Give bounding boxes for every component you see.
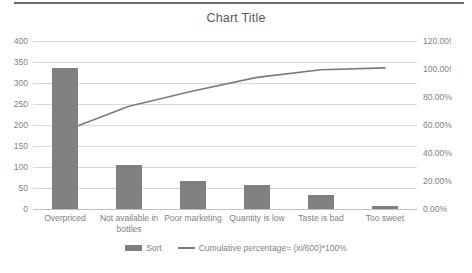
y-axis-left-tick-label: 250	[0, 99, 28, 109]
pareto-chart: Chart Title 050100150200250300350400 0.0…	[0, 0, 472, 273]
y-axis-left-tick-label: 150	[0, 141, 28, 151]
y-axis-right-tick-label: 20.00%	[423, 176, 452, 186]
gridline	[33, 209, 417, 210]
x-axis-tick-label: Not available in bottles	[98, 213, 159, 234]
chart-legend: Sort Cumulative percentage= (xi/600)*100…	[0, 243, 472, 253]
y-axis-right-tick-label: 120.00!	[423, 36, 451, 46]
y-axis-left-tick-label: 0	[0, 204, 28, 214]
x-axis-tick-label: Overpriced	[34, 213, 95, 224]
y-axis-right-tick-label: 40.00%	[423, 148, 452, 158]
plot-area: 050100150200250300350400 0.00%20.00%40.0…	[33, 41, 417, 209]
y-axis-left-tick-label: 50	[0, 183, 28, 193]
x-axis-tick-label: Quantity is low	[226, 213, 287, 224]
legend-label-sort: Sort	[146, 243, 162, 253]
y-axis-left-tick-label: 350	[0, 57, 28, 67]
y-axis-right-tick-label: 60.00%	[423, 120, 452, 130]
chart-title: Chart Title	[0, 11, 472, 25]
legend-item-sort: Sort	[125, 243, 162, 253]
y-axis-left-tick-label: 300	[0, 78, 28, 88]
y-axis-left-tick-label: 400	[0, 36, 28, 46]
legend-bar-swatch-icon	[125, 245, 142, 251]
y-axis-right-tick-label: 100.00!	[423, 64, 451, 74]
x-axis-tick-label: Poor marketing	[162, 213, 223, 224]
legend-item-cumulative-percentage: Cumulative percentage= (xi/600)*100%	[178, 243, 347, 253]
y-axis-left-tick-label: 100	[0, 162, 28, 172]
y-axis-right-tick-label: 0.00%	[423, 204, 447, 214]
legend-label-cumulative-percentage: Cumulative percentage= (xi/600)*100%	[199, 243, 347, 253]
cumulative-percentage-line	[33, 41, 417, 209]
legend-line-swatch-icon	[178, 247, 195, 249]
x-axis-tick-label: Taste is bad	[290, 213, 351, 224]
x-axis-tick-label: Too sweet	[354, 213, 415, 224]
y-axis-left-tick-label: 200	[0, 120, 28, 130]
y-axis-right-tick-label: 80.00%	[423, 92, 452, 102]
